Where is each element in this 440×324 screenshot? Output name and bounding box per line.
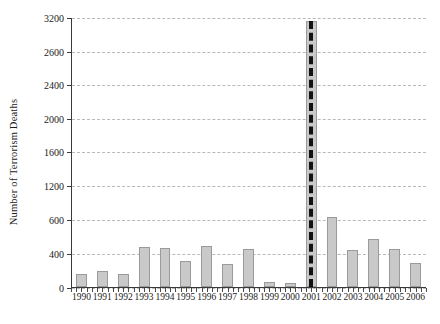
gridline <box>72 220 426 221</box>
x-axis-tick-label: 1993 <box>135 292 154 302</box>
bar-2004 <box>368 239 379 287</box>
y-axis-tick <box>67 119 72 120</box>
y-axis-tick-label: 0 <box>59 283 64 294</box>
x-axis-tick-label: 1990 <box>72 292 91 302</box>
bar-2000 <box>285 283 296 287</box>
x-axis-tick-label: 1996 <box>197 292 216 302</box>
y-axis-tick-label: 1200 <box>44 181 64 192</box>
bar-1996 <box>201 246 212 287</box>
x-axis-tick-label: 2005 <box>385 292 404 302</box>
x-axis-tick-label: 2000 <box>281 292 300 302</box>
x-axis-labels: 1990199119921993199419951996199719981999… <box>71 292 426 308</box>
bar-2005 <box>389 249 400 287</box>
y-axis-line <box>71 18 72 288</box>
y-axis-tick <box>67 220 72 221</box>
terrorism-deaths-bar-chart: Number of Terrorism Deaths 0400600120016… <box>0 0 440 324</box>
y-axis-tick-label: 2400 <box>44 80 64 91</box>
y-axis-tick-label: 1600 <box>44 147 64 158</box>
x-axis-tick-label: 2004 <box>364 292 383 302</box>
bar-1992 <box>118 274 129 287</box>
y-axis-tick <box>67 254 72 255</box>
plot-area: 0400600120016002000240026003200 <box>71 18 426 288</box>
bar-2006 <box>410 263 421 287</box>
x-axis-tick-label: 1995 <box>176 292 195 302</box>
gridline <box>72 186 426 187</box>
y-axis-tick-label: 2600 <box>44 47 64 58</box>
y-axis-tick-label: 2000 <box>44 114 64 125</box>
gridline <box>72 85 426 86</box>
gridline <box>72 119 426 120</box>
bar-2003 <box>347 250 358 287</box>
gridline <box>72 18 426 19</box>
y-axis-tick-label: 3200 <box>44 13 64 24</box>
x-axis-tick-label: 2001 <box>302 292 321 302</box>
y-axis-tick <box>67 52 72 53</box>
x-axis-tick-label: 1994 <box>155 292 174 302</box>
bar-1990 <box>76 274 87 287</box>
x-axis-tick-label: 2003 <box>343 292 362 302</box>
y-axis-tick <box>67 152 72 153</box>
x-axis-minor-tick <box>426 288 427 292</box>
bar-1999 <box>264 282 275 287</box>
bar-1995 <box>180 261 191 287</box>
y-axis-tick <box>67 18 72 19</box>
bar-2002 <box>327 217 338 287</box>
x-axis-tick-label: 2006 <box>406 292 425 302</box>
y-axis-tick <box>67 186 72 187</box>
bar-1993 <box>139 247 150 287</box>
y-axis-tick-label: 600 <box>49 215 64 226</box>
bar-1998 <box>243 249 254 287</box>
bar-1991 <box>97 271 108 287</box>
y-axis-tick <box>67 85 72 86</box>
marker-2001-line <box>309 21 313 287</box>
x-axis-tick-label: 1992 <box>114 292 133 302</box>
y-axis-title: Number of Terrorism Deaths <box>0 0 26 324</box>
x-axis-tick-label: 1998 <box>239 292 258 302</box>
x-axis-tick-label: 1999 <box>260 292 279 302</box>
y-axis-tick-label: 400 <box>49 249 64 260</box>
gridline <box>72 152 426 153</box>
x-axis-tick-label: 1997 <box>218 292 237 302</box>
x-axis-tick-label: 2002 <box>323 292 342 302</box>
gridline <box>72 52 426 53</box>
bar-1994 <box>160 248 171 287</box>
bar-1997 <box>222 264 233 287</box>
x-axis-tick-label: 1991 <box>93 292 112 302</box>
